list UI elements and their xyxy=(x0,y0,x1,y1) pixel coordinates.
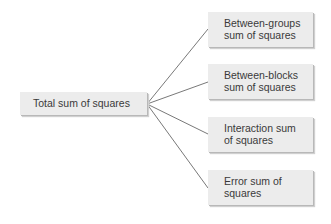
box-label-line1: Between-blocks xyxy=(224,69,313,81)
between-groups-box: Between-groups sum of squares xyxy=(208,12,313,47)
total-sum-of-squares-box: Total sum of squares xyxy=(20,92,147,115)
box-label-line2: squares xyxy=(224,187,313,199)
between-blocks-box: Between-blocks sum of squares xyxy=(208,64,313,99)
connector-line-error xyxy=(147,104,208,188)
interaction-box: Interaction sum of squares xyxy=(208,117,313,152)
box-label-line1: Interaction sum xyxy=(224,122,313,134)
box-label-line1: Between-groups xyxy=(224,17,313,29)
root-label: Total sum of squares xyxy=(33,97,147,109)
box-label-line1: Error sum of xyxy=(224,175,313,187)
box-label-line2: sum of squares xyxy=(224,29,313,41)
box-label-line2: of squares xyxy=(224,134,313,146)
error-box: Error sum of squares xyxy=(208,170,313,205)
box-label-line2: sum of squares xyxy=(224,81,313,93)
connector-line-interaction xyxy=(147,104,208,134)
